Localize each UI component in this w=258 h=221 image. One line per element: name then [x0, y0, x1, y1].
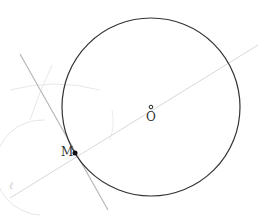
construction-arc-cross: [30, 65, 52, 120]
label-M: M: [61, 145, 73, 159]
construction-arc-top: [10, 84, 100, 90]
radial-line: [10, 45, 258, 198]
construction-arc-left: [0, 120, 45, 215]
label-O: O: [146, 110, 156, 124]
tangent-line: [20, 54, 108, 210]
point-O: [149, 105, 153, 109]
geometry-canvas: [0, 0, 258, 221]
label-line: ℓ: [9, 180, 13, 191]
